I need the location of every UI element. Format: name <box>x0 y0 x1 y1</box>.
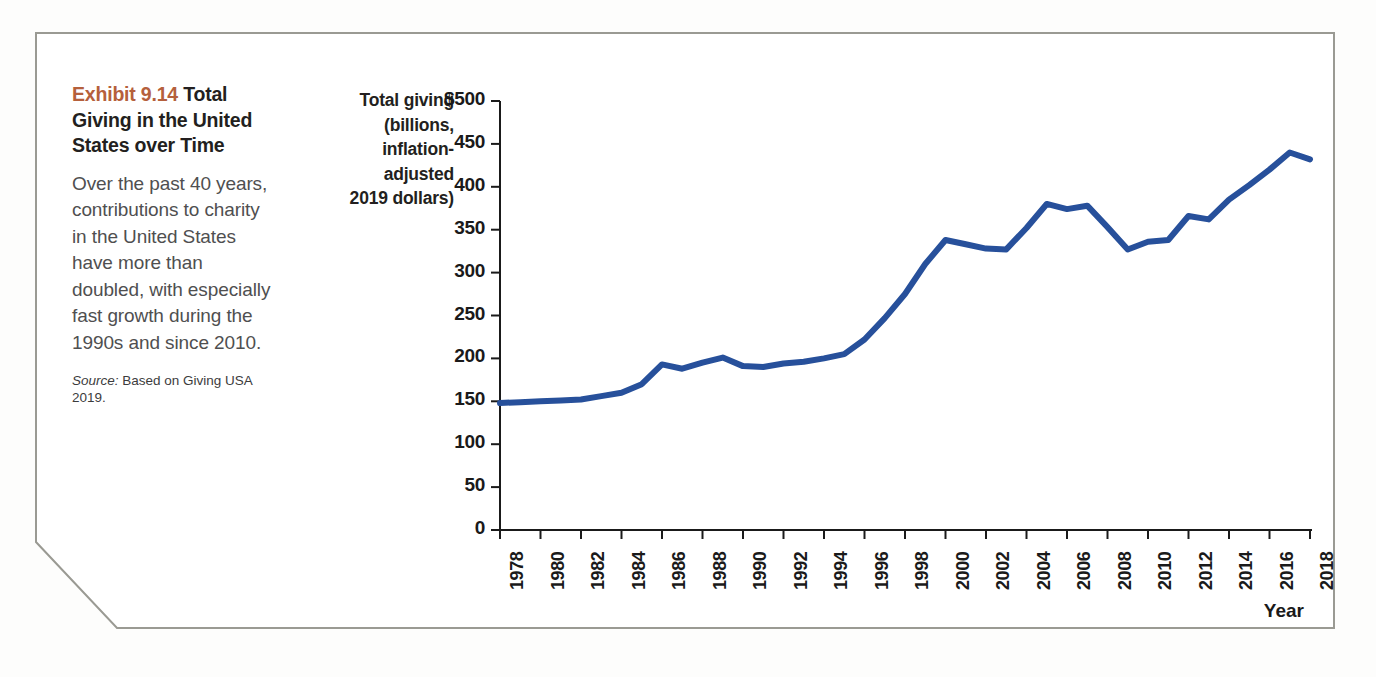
chart-series-total-giving <box>500 152 1310 403</box>
exhibit-description: Over the past 40 years, contributions to… <box>72 171 277 357</box>
page-title: Exhibit 9.14 Total Giving in the United … <box>72 82 277 159</box>
exhibit-source: Source: Based on Giving USA 2019. <box>72 372 277 406</box>
chart-line-total-giving <box>500 152 1310 403</box>
exhibit-number: Exhibit 9.14 <box>72 83 178 105</box>
line-chart: Total giving(billions,inflation-adjusted… <box>300 70 1340 630</box>
caption-column: Exhibit 9.14 Total Giving in the United … <box>72 82 277 406</box>
source-label: Source: <box>72 373 119 388</box>
chart-plot-svg <box>300 70 1340 630</box>
x-axis-title: Year <box>1264 600 1304 622</box>
chart-axes <box>491 101 1312 539</box>
